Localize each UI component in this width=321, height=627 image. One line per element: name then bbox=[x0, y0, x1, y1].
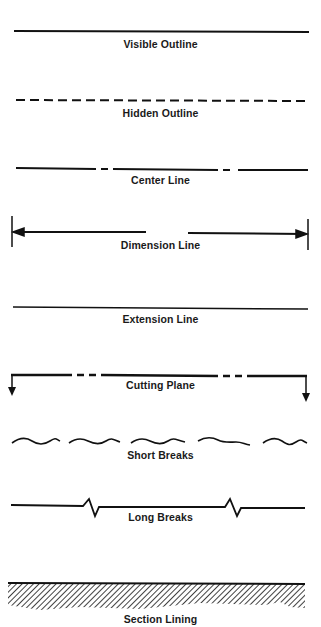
long-breaks-label: Long Breaks bbox=[0, 511, 321, 523]
extension-line-line bbox=[13, 307, 308, 309]
center-line-line bbox=[16, 168, 308, 170]
visible-outline-line bbox=[14, 31, 309, 32]
extension-line-label: Extension Line bbox=[0, 313, 321, 325]
hidden-outline-line bbox=[16, 100, 310, 101]
visible-outline-label: Visible Outline bbox=[0, 38, 321, 50]
short-breaks-label: Short Breaks bbox=[0, 449, 321, 461]
hidden-outline-label: Hidden Outline bbox=[0, 107, 321, 119]
dimension-line-label: Dimension Line bbox=[0, 239, 321, 251]
center-line-label: Center Line bbox=[0, 174, 321, 186]
short-breaks-line bbox=[12, 438, 307, 445]
section-lining-label: Section Lining bbox=[0, 613, 321, 625]
section-lining-hatch bbox=[8, 583, 305, 610]
cutting-plane-label: Cutting Plane bbox=[0, 379, 321, 391]
